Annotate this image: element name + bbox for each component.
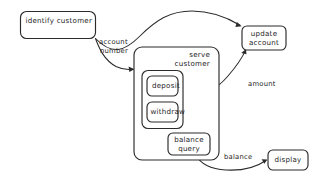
serve-customer-label-line1: serve: [189, 50, 210, 59]
identify-customer-label: identify customer: [26, 16, 93, 25]
update-account-label-line1: update: [251, 29, 278, 38]
diagram-canvas: account number amount balance identify c…: [0, 0, 323, 180]
node-display[interactable]: display: [268, 150, 308, 170]
edge-amount-label: amount: [248, 80, 276, 88]
node-balance-query[interactable]: balance query: [168, 133, 210, 155]
serve-customer-label-line2: customer: [175, 59, 210, 68]
display-label: display: [275, 155, 302, 164]
node-update-account[interactable]: update account: [242, 26, 286, 50]
balance-query-label-line2: query: [178, 144, 200, 153]
update-account-label-line2: account: [249, 38, 279, 47]
edge-balance-label: balance: [224, 153, 253, 161]
deposit-label: deposit: [152, 81, 180, 90]
node-deposit[interactable]: deposit: [147, 76, 180, 96]
node-identify-customer[interactable]: identify customer: [21, 12, 96, 39]
withdraw-label: withdraw: [151, 107, 186, 116]
